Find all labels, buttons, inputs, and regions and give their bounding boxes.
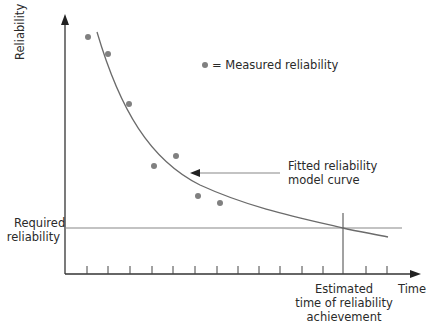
required-label-line2: reliability (4, 230, 60, 244)
x-axis-label: Time (398, 282, 426, 296)
legend-label: = Measured reliability (212, 58, 338, 72)
y-axis-arrow-icon (61, 14, 69, 25)
y-axis-label: Reliability (13, 4, 27, 60)
estimated-label-line1: Estimated (300, 282, 388, 296)
legend-dot-icon (202, 62, 208, 68)
required-label-line1: Required (14, 216, 60, 230)
curve-label-line1: Fitted reliability (288, 159, 377, 173)
curve-label-line2: model curve (288, 173, 360, 187)
curve-pointer-arrow-icon (190, 169, 200, 177)
estimated-label-line3: achievement (300, 310, 388, 324)
x-ticks (87, 266, 387, 274)
estimated-label-line2: time of reliability (290, 296, 398, 310)
x-axis-arrow-icon (410, 270, 421, 278)
